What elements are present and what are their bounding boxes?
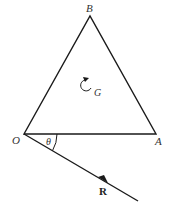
diagram-canvas: B O A G θ R bbox=[0, 0, 175, 216]
force-label-r: R bbox=[99, 185, 108, 197]
vertex-label-o: O bbox=[12, 134, 20, 146]
vertex-label-a: A bbox=[154, 135, 162, 147]
rotation-icon bbox=[81, 77, 91, 91]
angle-label-theta: θ bbox=[46, 136, 51, 147]
angle-arc-theta bbox=[53, 134, 58, 151]
force-line-r bbox=[24, 134, 138, 201]
triangle-oba bbox=[24, 16, 156, 134]
vertex-label-b: B bbox=[86, 2, 93, 14]
triangle-diagram: B O A G θ R bbox=[0, 0, 175, 216]
center-label-g: G bbox=[94, 87, 101, 98]
